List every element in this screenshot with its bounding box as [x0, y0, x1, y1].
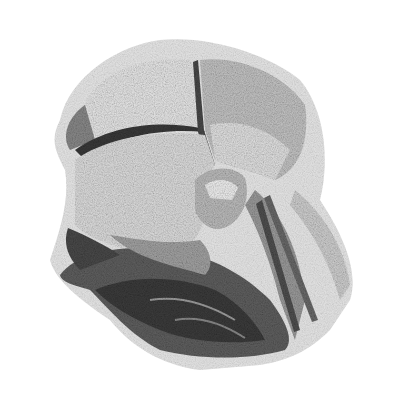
stippled-illustration-svg: [0, 0, 394, 409]
organ-shapes: [50, 39, 353, 370]
illustration: [0, 0, 394, 409]
